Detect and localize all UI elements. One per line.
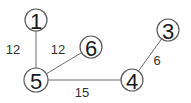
node-label: 5: [30, 69, 42, 94]
edge-weight-4-3: 6: [153, 53, 160, 68]
edge-weight-5-4: 15: [75, 85, 89, 100]
node-6: 6: [80, 36, 102, 61]
node-label: 3: [162, 19, 174, 44]
edge-weight-1-5: 12: [6, 42, 20, 57]
node-4: 4: [121, 69, 143, 94]
node-label: 6: [85, 36, 97, 61]
edge-weight-5-6: 12: [51, 42, 65, 57]
node-label: 1: [30, 9, 42, 34]
weighted-graph: 1212156 15643: [0, 0, 191, 103]
nodes: 15643: [24, 9, 179, 94]
node-label: 4: [126, 69, 138, 94]
node-5: 5: [24, 68, 48, 94]
node-1: 1: [25, 9, 47, 34]
node-3: 3: [157, 19, 179, 44]
